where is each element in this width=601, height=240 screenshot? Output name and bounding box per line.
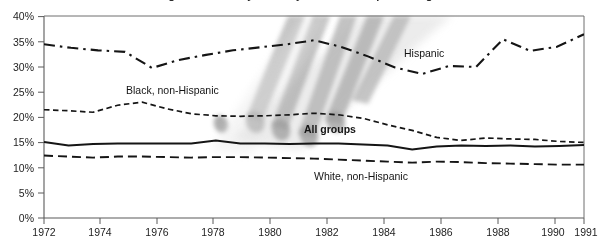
y-tick-label-20: 20% (13, 111, 34, 123)
x-tick-label-1988: 1988 (486, 226, 510, 238)
y-tick-marks (38, 17, 44, 218)
x-tick-marks (44, 218, 584, 224)
annotation-hispanic: Hispanic (404, 47, 444, 59)
y-tick-label-5: 5% (19, 187, 34, 199)
annotation-black-non-hispanic: Black, non-Hispanic (126, 84, 219, 96)
annotation-all-groups: All groups (304, 123, 356, 135)
chart-screenshot: Figure 2. Poverty rates by race and Hisp… (0, 0, 601, 240)
x-tick-label-1982: 1982 (315, 226, 339, 238)
series-line-white-non-hispanic (44, 156, 584, 165)
y-tick-label-40: 40% (13, 10, 34, 22)
x-tick-label-1991: 1991 (574, 226, 598, 238)
y-tick-label-0: 0% (19, 212, 34, 224)
x-tick-label-1972: 1972 (32, 226, 56, 238)
poverty-rate-line-chart: 40% 35% 30% 25% 20% 15% 10% 5% 0% (0, 0, 601, 240)
x-tick-label-1976: 1976 (145, 226, 169, 238)
x-tick-label-1990: 1990 (541, 226, 565, 238)
x-tick-label-1974: 1974 (88, 226, 112, 238)
y-tick-label-30: 30% (13, 61, 34, 73)
y-axis: 40% 35% 30% 25% 20% 15% 10% 5% 0% (13, 10, 44, 223)
x-tick-label-1980: 1980 (258, 226, 282, 238)
annotation-white-non-hispanic: White, non-Hispanic (314, 170, 408, 182)
x-tick-label-1978: 1978 (201, 226, 225, 238)
y-tick-label-10: 10% (13, 162, 34, 174)
y-tick-label-25: 25% (13, 86, 34, 98)
y-tick-label-15: 15% (13, 136, 34, 148)
x-tick-label-1986: 1986 (429, 226, 453, 238)
y-tick-label-35: 35% (13, 36, 34, 48)
x-tick-label-1984: 1984 (372, 226, 396, 238)
x-axis: 1972 1974 1976 1978 1980 1982 1984 1986 … (32, 218, 598, 238)
